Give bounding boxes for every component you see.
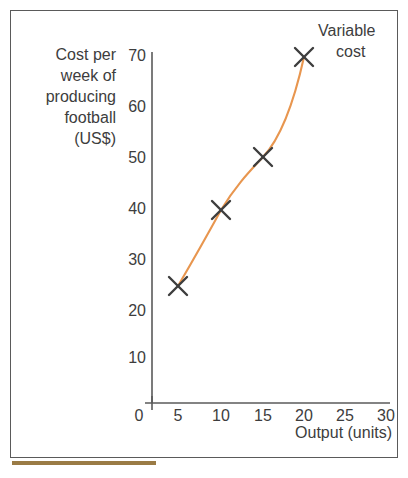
data-point-marker-1 [169, 277, 187, 295]
data-point-marker-4 [295, 48, 313, 66]
chart-plot-area [0, 0, 408, 478]
series-line-variable-cost [178, 57, 304, 286]
data-point-marker-2 [212, 201, 230, 219]
chart-svg [0, 0, 408, 478]
figure-page: Cost per week of producing football (US$… [0, 0, 408, 478]
data-point-marker-3 [254, 148, 272, 166]
